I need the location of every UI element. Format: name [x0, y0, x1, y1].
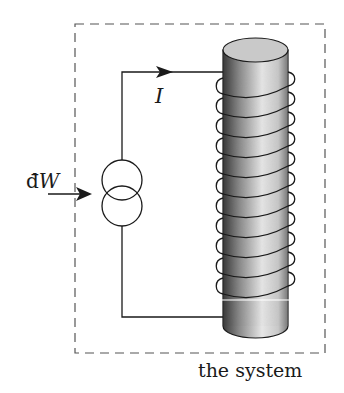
current-label: I [154, 84, 164, 108]
circuit-wires [122, 72, 223, 317]
current-source-symbol [102, 160, 142, 226]
bottom-wire [122, 226, 223, 317]
solenoid-system-diagram: đW I the system [0, 0, 344, 393]
system-label: the system [198, 359, 302, 381]
diagram-canvas: đW I the system [0, 0, 344, 393]
cylinder-top [223, 38, 288, 62]
work-label: đW [26, 169, 61, 193]
solenoid-core [223, 38, 288, 338]
top-wire [122, 72, 223, 160]
